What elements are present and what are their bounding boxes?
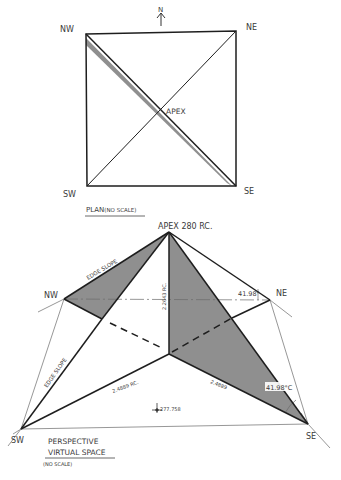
plan-corner-se: SE <box>244 187 254 196</box>
plan-corner-sw: SW <box>63 190 76 199</box>
perspective-view: 277.758 APEX 280 RC. NW NE SW SE EDGE SL… <box>8 222 330 467</box>
plan-apex-label: APEX <box>166 107 186 116</box>
plan-corner-nw: NW <box>60 25 74 34</box>
north-arrow-icon <box>157 13 165 26</box>
angle-se: 41.98°C <box>266 384 293 392</box>
angle-ne: 41.98° <box>238 290 260 298</box>
level-mark-value: 277.758 <box>160 406 181 412</box>
height-dimension: 2.2643 RC. <box>161 282 167 310</box>
plan-view: N NW NE SW SE APEX PLAN(NO SCALE) <box>60 6 257 216</box>
persp-corner-nw: NW <box>44 291 58 300</box>
plan-caption: PLAN(NO SCALE) <box>86 206 136 214</box>
face-nw-shaded <box>64 232 169 319</box>
persp-corner-se: SE <box>306 432 316 441</box>
plan-corner-ne: NE <box>246 23 257 32</box>
perspective-caption-note: (NO SCALE) <box>43 461 72 467</box>
apex-label: APEX 280 RC. <box>158 222 212 231</box>
north-label: N <box>158 6 163 14</box>
persp-corner-ne: NE <box>276 289 287 298</box>
perspective-caption-line2: VIRTUAL SPACE <box>48 448 106 457</box>
perspective-caption-line1: PERSPECTIVE <box>48 437 99 446</box>
persp-corner-sw: SW <box>11 436 24 445</box>
edge-slope-lower: EDGE SLOPE <box>43 356 68 388</box>
pyramid-drawing: N NW NE SW SE APEX PLAN(NO SCALE) <box>0 0 341 480</box>
